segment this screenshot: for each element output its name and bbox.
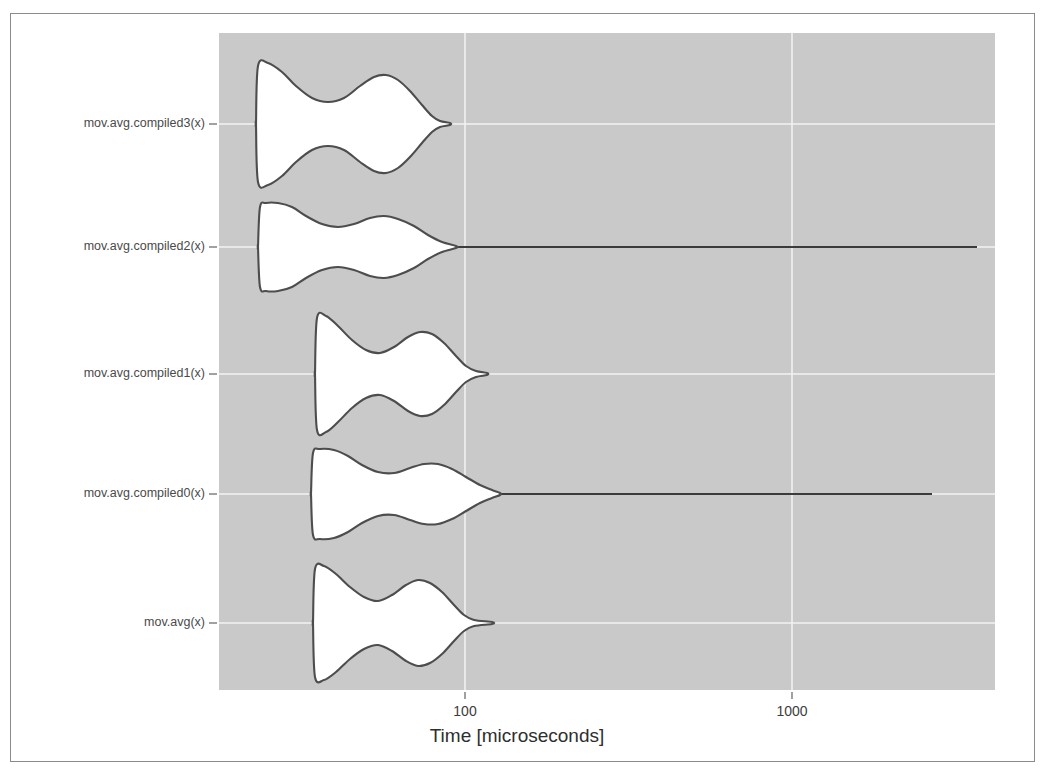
y-tick-label-4: mov.avg(x) [144,615,205,629]
x-tick-label-0: 100 [453,703,477,719]
y-tick-label-3: mov.avg.compiled0(x) [84,486,205,500]
y-tick-label-1: mov.avg.compiled2(x) [84,239,205,253]
y-tick-label-2: mov.avg.compiled1(x) [84,366,205,380]
x-axis-tick-labels: 1001000 [453,692,807,719]
figure-frame: mov.avg.compiled3(x)mov.avg.compiled2(x)… [10,13,1035,762]
y-axis-tick-labels: mov.avg.compiled3(x)mov.avg.compiled2(x)… [84,116,217,629]
x-axis-title: Time [microseconds] [430,725,605,746]
y-tick-label-0: mov.avg.compiled3(x) [84,116,205,130]
screenshot-page: mov.avg.compiled3(x)mov.avg.compiled2(x)… [0,0,1053,775]
violin-plot-chart: mov.avg.compiled3(x)mov.avg.compiled2(x)… [11,14,1034,761]
x-tick-label-1: 1000 [776,703,807,719]
